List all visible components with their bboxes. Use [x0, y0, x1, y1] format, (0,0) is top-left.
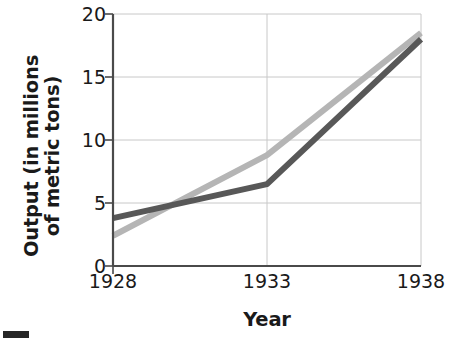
corner-register-mark — [3, 331, 29, 338]
y-axis-tick-marks — [105, 14, 113, 266]
line-chart: Output (in millions of metric tons) 20 1… — [0, 0, 451, 342]
plot-area — [0, 0, 451, 342]
